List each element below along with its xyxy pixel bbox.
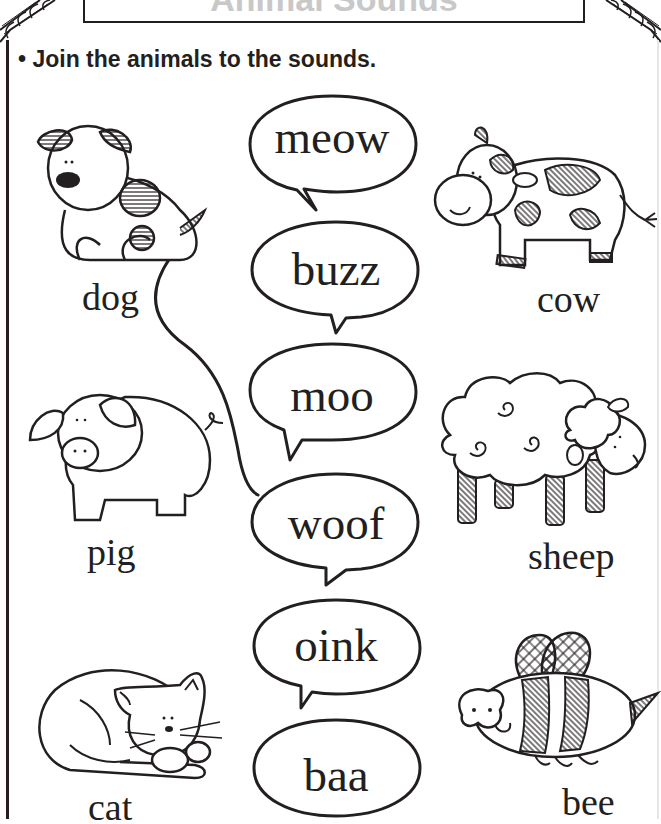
animal-sheep[interactable]: sheep [430,365,661,585]
animal-label: cow [537,280,600,318]
cow-icon [425,115,661,285]
sound-word: baa [246,752,426,799]
animal-label: sheep [528,537,615,575]
animal-dog[interactable]: dog [30,110,210,280]
animal-cat[interactable]: cat [30,660,240,820]
animal-label: bee [562,783,615,821]
sound-word: buzz [246,246,426,293]
cat-icon [30,660,240,790]
dog-icon [30,110,210,280]
sound-word: meow [242,114,422,161]
sound-bubble-moo[interactable]: moo [242,342,422,462]
pig-icon [25,385,225,525]
sound-bubble-oink[interactable]: oink [246,598,426,718]
sound-word: woof [246,500,426,547]
animal-cow[interactable]: cow [425,115,661,315]
sheep-icon [430,365,661,535]
animal-label: dog [82,278,139,316]
animal-pig[interactable]: pig [25,385,225,585]
bee-icon [450,625,661,775]
animal-label: cat [88,788,132,824]
sound-word: moo [242,372,422,419]
sound-word: oink [246,622,426,669]
sound-bubble-buzz[interactable]: buzz [246,218,426,338]
sound-bubble-meow[interactable]: meow [242,92,422,212]
animal-label: pig [87,533,136,571]
sound-bubble-woof[interactable]: woof [246,470,426,590]
animal-bee[interactable]: bee [450,625,661,819]
sound-bubble-baa[interactable]: baa [246,716,426,824]
